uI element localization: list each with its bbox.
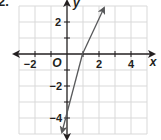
y-tick-label: −4	[49, 112, 62, 124]
x-tick-label: 2	[96, 58, 102, 70]
origin-label: O	[52, 56, 62, 70]
x-tick-label: 4	[128, 58, 135, 70]
x-tick-label: −2	[24, 58, 37, 70]
grid	[19, 6, 147, 134]
y-axis-label: y	[72, 0, 81, 10]
coordinate-plane: −2 2 4 2 −2 −4 O x y	[0, 0, 161, 140]
x-axis-label: x	[149, 55, 158, 69]
y-tick-label: 2	[55, 16, 61, 28]
y-tick-label: −2	[49, 80, 62, 92]
